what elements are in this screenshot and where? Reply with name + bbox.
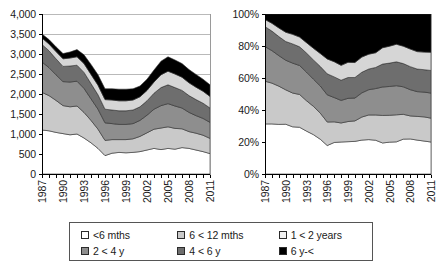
x-tick: [348, 175, 349, 178]
legend-label: 6 y-<: [291, 246, 314, 257]
legend-row: 2 < 4 y 4 < 6 y 6 y-<: [70, 243, 372, 259]
x-tick: [63, 175, 64, 178]
y-tick-label: 60%: [221, 73, 259, 84]
x-tick: [154, 175, 155, 178]
x-tick: [70, 175, 71, 178]
x-tick: [313, 175, 314, 178]
plot-percentage: 0%20%40%60%80%100%1987199019931996199920…: [221, 0, 442, 215]
x-tick-label: 2005: [385, 180, 396, 203]
x-tick-label: 1990: [281, 180, 292, 203]
y-tick-label: 80%: [221, 41, 259, 52]
x-tick: [327, 175, 328, 178]
x-tick: [105, 175, 106, 178]
x-tick-label: 2002: [142, 180, 153, 203]
x-tick-label: 2008: [405, 180, 416, 203]
x-tick: [56, 175, 57, 178]
x-tick: [286, 175, 287, 178]
x-tick: [376, 175, 377, 178]
y-tick: [39, 94, 42, 95]
x-tick: [119, 175, 120, 178]
legend-item: 4 < 6 y: [173, 246, 276, 257]
x-tick: [161, 175, 162, 178]
x-tick: [341, 175, 342, 178]
y-tick-label: 2,000: [0, 89, 36, 100]
y-axis-line: [42, 14, 43, 175]
legend-swatch-icon: [279, 231, 287, 239]
y-tick: [262, 110, 265, 111]
x-tick: [396, 175, 397, 178]
x-tick-label: 2011: [426, 180, 437, 202]
x-tick: [210, 175, 211, 178]
legend-swatch-icon: [279, 247, 287, 255]
x-tick: [112, 175, 113, 178]
area-stack-percentage: [265, 14, 431, 175]
y-tick: [39, 54, 42, 55]
x-tick-label: 2011: [205, 180, 216, 202]
x-tick: [334, 175, 335, 178]
x-tick-label: 2008: [184, 180, 195, 203]
y-tick: [262, 78, 265, 79]
legend-item: 2 < 4 y: [70, 246, 173, 257]
y-tick: [39, 14, 42, 15]
y-tick: [39, 154, 42, 155]
legend-item: 1 < 2 years: [277, 230, 372, 241]
y-tick: [39, 74, 42, 75]
y-tick: [262, 46, 265, 47]
y-tick-label: 100%: [221, 9, 259, 20]
x-tick: [168, 175, 169, 178]
x-tick-label: 1996: [100, 180, 111, 203]
y-tick-label: 1,500: [0, 109, 36, 120]
legend-row: <6 mths 6 < 12 mths 1 < 2 years: [70, 227, 372, 243]
x-tick: [383, 175, 384, 178]
x-tick: [147, 175, 148, 178]
legend-item: <6 mths: [70, 230, 173, 241]
y-tick-label: 2,500: [0, 69, 36, 80]
legend-swatch-icon: [177, 231, 185, 239]
y-tick-label: 500: [0, 149, 36, 160]
x-tick: [293, 175, 294, 178]
legend-item: 6 y-<: [277, 246, 372, 257]
y-tick: [262, 142, 265, 143]
y-tick: [262, 14, 265, 15]
legend-label: 6 < 12 mths: [189, 230, 243, 241]
x-tick-label: 1987: [260, 180, 271, 203]
x-tick: [417, 175, 418, 178]
figure-root: 05001,0001,5002,0002,5003,0003,5004,0001…: [0, 0, 442, 271]
legend-label: 2 < 4 y: [93, 246, 124, 257]
y-axis-line: [265, 14, 266, 175]
x-tick: [265, 175, 266, 178]
legend-label: 4 < 6 y: [189, 246, 220, 257]
legend-swatch-icon: [177, 247, 185, 255]
x-tick: [355, 175, 356, 178]
y-tick-label: 3,000: [0, 49, 36, 60]
x-tick: [410, 175, 411, 178]
legend-label: 1 < 2 years: [291, 230, 342, 241]
x-tick: [279, 175, 280, 178]
x-tick-label: 1993: [79, 180, 90, 203]
y-tick: [39, 34, 42, 35]
y-tick: [39, 134, 42, 135]
x-tick: [98, 175, 99, 178]
x-tick-label: 2002: [364, 180, 375, 203]
x-tick: [49, 175, 50, 178]
x-tick-label: 2005: [163, 180, 174, 203]
x-tick: [133, 175, 134, 178]
x-tick: [369, 175, 370, 178]
y-tick-label: 20%: [221, 137, 259, 148]
x-tick-label: 1987: [37, 180, 48, 203]
x-tick: [307, 175, 308, 178]
x-tick: [431, 175, 432, 178]
x-tick: [320, 175, 321, 178]
x-tick: [196, 175, 197, 178]
plot-absolute: 05001,0001,5002,0002,5003,0003,5004,0001…: [0, 0, 221, 215]
x-tick: [182, 175, 183, 178]
x-tick: [300, 175, 301, 178]
x-tick: [84, 175, 85, 178]
legend-swatch-icon: [81, 231, 89, 239]
x-tick: [203, 175, 204, 178]
y-tick-label: 1,000: [0, 129, 36, 140]
x-tick: [126, 175, 127, 178]
x-tick: [91, 175, 92, 178]
x-tick: [175, 175, 176, 178]
x-tick: [390, 175, 391, 178]
